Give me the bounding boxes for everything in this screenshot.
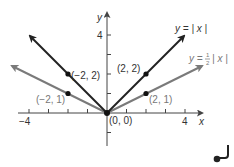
equation-abs-x: y = | x |: [174, 23, 207, 34]
svg-text:y =: y =: [188, 53, 203, 64]
point-label-2-2: (2, 2): [117, 63, 140, 74]
absolute-value-graph: y x 4 −4 4 (0, 0) (−2, 2) (2, 2) (−2, 1)…: [0, 0, 234, 167]
origin-label: (0, 0): [109, 115, 132, 126]
point-label-neg2-2: (−2, 2): [71, 70, 100, 81]
svg-text:| x |: | x |: [212, 53, 228, 64]
y-axis-label: y: [96, 12, 103, 23]
svg-text:1: 1: [206, 52, 210, 58]
y-tick-label-4: 4: [97, 30, 103, 41]
end-mark-icon: [214, 145, 228, 162]
point-label-2-1: (2, 1): [149, 94, 172, 105]
svg-text:2: 2: [206, 60, 210, 66]
point-2-1: [143, 91, 148, 96]
point-2-2: [143, 71, 148, 76]
point-label-neg2-1: (−2, 1): [36, 94, 65, 105]
x-tick-label-neg4: −4: [19, 116, 31, 127]
equation-half-abs-x: y = 1 2 | x |: [188, 52, 228, 66]
point-neg2-2: [65, 71, 70, 76]
point-neg2-1: [65, 91, 70, 96]
x-axis-label: x: [198, 116, 205, 127]
x-tick-label-4: 4: [182, 116, 188, 127]
